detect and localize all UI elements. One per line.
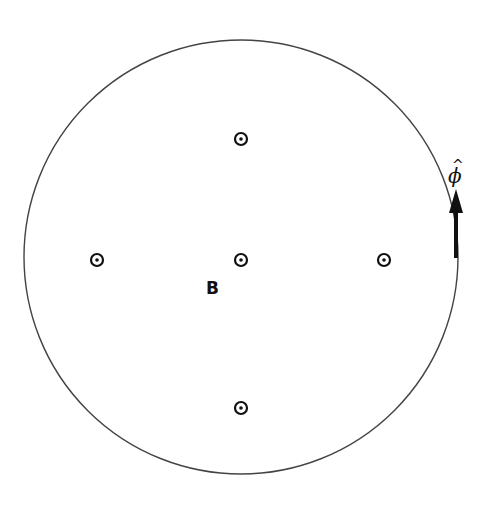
field-label-b: B [206,278,219,298]
field-marker-center [235,254,247,266]
phi-hat-arrow [449,189,463,258]
field-marker-bottom [235,402,247,414]
field-marker-top [235,133,247,145]
diagram-canvas: B ^ ϕ [0,0,483,506]
field-marker-right [378,254,390,266]
field-marker-left [91,254,103,266]
phi-hat-label: ϕ [448,164,462,188]
